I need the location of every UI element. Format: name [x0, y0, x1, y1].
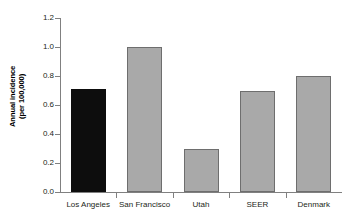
plot-area	[60, 18, 342, 192]
y-axis-tick-label: 1.2	[32, 14, 54, 22]
bar	[127, 47, 162, 192]
y-axis-tick-mark	[55, 192, 60, 193]
y-axis-title: Annual incidence (per 100,000)	[6, 0, 30, 192]
x-axis-category-label: Denmark	[286, 200, 342, 209]
x-axis-tick-mark	[116, 193, 117, 198]
x-axis-category-label: Utah	[173, 200, 229, 209]
y-axis-tick-label: 0.2	[32, 159, 54, 167]
y-axis-tick-label: 0.8	[32, 72, 54, 80]
x-axis-category-label: San Francisco	[116, 200, 172, 209]
y-axis-tick-label: 0.0	[32, 188, 54, 196]
y-axis-tick-mark	[55, 105, 60, 106]
y-axis-tick-mark	[55, 134, 60, 135]
y-axis-title-line2: (per 100,000)	[18, 73, 27, 118]
x-axis-category-label: SEER	[229, 200, 285, 209]
x-axis-tick-mark	[229, 193, 230, 198]
x-axis-tick-mark	[286, 193, 287, 198]
bar	[296, 76, 331, 192]
y-axis-title-line1: Annual incidence	[9, 65, 18, 126]
bar	[184, 149, 219, 193]
x-axis-line	[60, 192, 342, 193]
x-axis-tick-mark	[173, 193, 174, 198]
y-axis-tick-label: 0.4	[32, 130, 54, 138]
y-axis-tick-labels: 0.00.20.40.60.81.01.2	[30, 0, 54, 218]
y-axis-tick-mark	[55, 76, 60, 77]
y-axis-tick-mark	[55, 163, 60, 164]
y-axis-tick-mark	[55, 47, 60, 48]
y-axis-tick-label: 1.0	[32, 43, 54, 51]
x-axis-category-label: Los Angeles	[60, 200, 116, 209]
bar	[71, 89, 106, 192]
bar	[240, 91, 275, 193]
y-axis-tick-mark	[55, 18, 60, 19]
bar-chart: Annual incidence (per 100,000) 0.00.20.4…	[0, 0, 348, 218]
y-axis-tick-label: 0.6	[32, 101, 54, 109]
